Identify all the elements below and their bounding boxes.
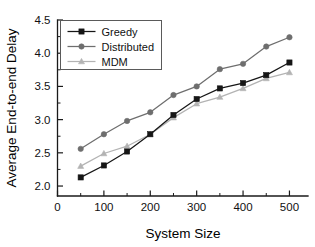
x-tick-label: 100 bbox=[94, 201, 113, 213]
line-chart: 0100200300400500 2.02.53.03.54.04.5 Gree… bbox=[0, 0, 315, 247]
y-tick-label: 4.0 bbox=[35, 47, 51, 59]
data-point-square bbox=[79, 29, 84, 34]
data-point-square bbox=[124, 149, 129, 154]
legend-entry-label: Greedy bbox=[102, 26, 139, 38]
legend-entry-label: MDM bbox=[102, 56, 128, 68]
x-tick-label: 0 bbox=[54, 201, 60, 213]
data-point-circle bbox=[79, 44, 84, 49]
data-point-triangle bbox=[78, 163, 84, 168]
y-tick-label: 2.0 bbox=[35, 180, 51, 192]
data-point-square bbox=[171, 112, 176, 117]
series-mdm bbox=[78, 69, 293, 168]
data-point-square bbox=[148, 132, 153, 137]
data-point-circle bbox=[240, 61, 245, 66]
y-tick-label: 3.0 bbox=[35, 114, 51, 126]
chart-figure: 0100200300400500 2.02.53.03.54.04.5 Gree… bbox=[0, 0, 315, 247]
data-point-circle bbox=[124, 118, 129, 123]
y-tick-label: 3.5 bbox=[35, 80, 51, 92]
series-line-greedy bbox=[81, 63, 290, 178]
data-point-circle bbox=[194, 84, 199, 89]
x-axis-title: System Size bbox=[145, 226, 220, 241]
data-point-circle bbox=[217, 66, 222, 71]
y-tick-label: 4.5 bbox=[35, 14, 51, 26]
x-axis-ticks bbox=[58, 191, 290, 197]
x-tick-label: 400 bbox=[233, 201, 252, 213]
series-greedy bbox=[78, 60, 292, 180]
data-point-square bbox=[78, 175, 83, 180]
data-point-circle bbox=[78, 146, 83, 151]
data-point-square bbox=[217, 86, 222, 91]
data-point-circle bbox=[148, 110, 153, 115]
x-tick-label: 200 bbox=[141, 201, 160, 213]
data-point-triangle bbox=[286, 69, 292, 74]
data-point-square bbox=[287, 60, 292, 65]
y-tick-label: 2.5 bbox=[35, 147, 51, 159]
x-axis-tick-labels: 0100200300400500 bbox=[54, 201, 299, 213]
data-point-circle bbox=[101, 132, 106, 137]
x-tick-label: 500 bbox=[280, 201, 299, 213]
series-line-mdm bbox=[81, 72, 290, 166]
data-point-square bbox=[194, 96, 199, 101]
data-point-circle bbox=[264, 44, 269, 49]
data-point-square bbox=[240, 80, 245, 85]
x-tick-label: 300 bbox=[187, 201, 206, 213]
data-point-circle bbox=[171, 92, 176, 97]
y-axis-tick-labels: 2.02.53.03.54.04.5 bbox=[35, 14, 51, 192]
chart-legend: GreedyDistributedMDM bbox=[61, 21, 162, 70]
data-point-square bbox=[101, 163, 106, 168]
y-axis-title: Average End-to-end Delay bbox=[4, 28, 19, 187]
data-point-square bbox=[264, 73, 269, 78]
legend-entry-label: Distributed bbox=[102, 41, 155, 53]
data-point-circle bbox=[287, 35, 292, 40]
